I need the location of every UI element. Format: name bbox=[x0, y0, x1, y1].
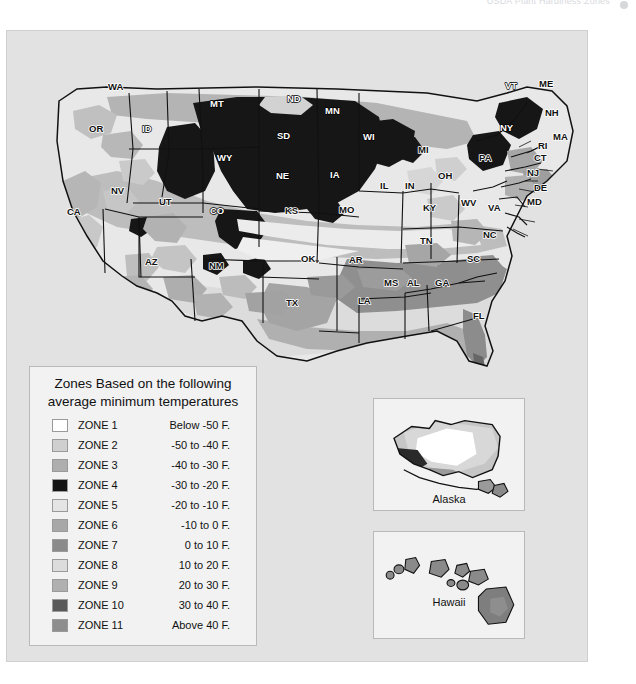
state-label-ri: RI bbox=[538, 140, 548, 151]
screenshot-root: USDA Plant Hardiness Zones bbox=[0, 0, 636, 684]
zone-name: ZONE 8 bbox=[78, 559, 140, 571]
zone-color-swatch bbox=[52, 419, 68, 432]
top-strip-text: USDA Plant Hardiness Zones bbox=[487, 0, 610, 6]
state-label-sd: SD bbox=[277, 130, 290, 141]
legend-title-line2: average minimum temperatures bbox=[40, 393, 246, 411]
zone-color-swatch bbox=[52, 599, 68, 612]
legend-row: ZONE 1Below -50 F. bbox=[40, 415, 246, 435]
state-label-az: AZ bbox=[145, 256, 158, 267]
zone-name: ZONE 5 bbox=[78, 499, 140, 511]
zone-temperature-range: 20 to 30 F. bbox=[140, 579, 246, 591]
zone-temperature-range: Above 40 F. bbox=[140, 619, 246, 631]
state-label-wy: WY bbox=[217, 152, 233, 163]
state-label-al: AL bbox=[407, 277, 420, 288]
state-label-ok: OK bbox=[301, 253, 315, 264]
state-label-ny: NY bbox=[500, 122, 514, 133]
zone-name: ZONE 1 bbox=[78, 419, 140, 431]
state-label-wv: WV bbox=[461, 197, 477, 208]
state-label-de: DE bbox=[534, 182, 547, 193]
state-label-ar: AR bbox=[349, 254, 363, 265]
zone-color-swatch bbox=[52, 579, 68, 592]
legend-row: ZONE 3-40 to -30 F. bbox=[40, 455, 246, 475]
legend-row: ZONE 1030 to 40 F. bbox=[40, 595, 246, 615]
state-label-ca: CA bbox=[67, 206, 81, 217]
zone-temperature-range: -40 to -30 F. bbox=[140, 459, 246, 471]
legend-row: ZONE 4-30 to -20 F. bbox=[40, 475, 246, 495]
alaska-caption: Alaska bbox=[374, 493, 524, 505]
zone-color-swatch bbox=[52, 479, 68, 492]
zone-name: ZONE 2 bbox=[78, 439, 140, 451]
zone-name: ZONE 7 bbox=[78, 539, 140, 551]
state-label-vt: VT bbox=[505, 80, 517, 91]
state-label-ga: GA bbox=[435, 277, 449, 288]
zone-temperature-range: -10 to 0 F. bbox=[140, 519, 246, 531]
state-label-id: ID bbox=[142, 123, 152, 134]
legend: Zones Based on the following average min… bbox=[29, 366, 257, 646]
zone-color-swatch bbox=[52, 459, 68, 472]
zone-temperature-range: 0 to 10 F. bbox=[140, 539, 246, 551]
state-label-va: VA bbox=[488, 202, 501, 213]
zone-name: ZONE 6 bbox=[78, 519, 140, 531]
legend-rows: ZONE 1Below -50 F.ZONE 2-50 to -40 F.ZON… bbox=[40, 415, 246, 635]
alaska-inset[interactable]: Alaska bbox=[373, 398, 525, 511]
state-label-co: CO bbox=[210, 205, 224, 216]
map-panel: WAORIDMTWYNVUTCACOAZNMNDSDNEKSOKTXMNIAMO… bbox=[6, 30, 588, 662]
state-label-ky: KY bbox=[423, 202, 437, 213]
zone-temperature-range: 30 to 40 F. bbox=[140, 599, 246, 611]
state-label-il: IL bbox=[380, 180, 389, 191]
legend-title-line1: Zones Based on the following bbox=[40, 375, 246, 393]
state-label-me: ME bbox=[539, 78, 553, 89]
state-label-fl: FL bbox=[473, 310, 485, 321]
state-label-or: OR bbox=[89, 123, 103, 134]
zone-color-swatch bbox=[52, 439, 68, 452]
hawaii-caption: Hawaii bbox=[374, 596, 524, 608]
state-label-ne: NE bbox=[276, 170, 289, 181]
zone-name: ZONE 9 bbox=[78, 579, 140, 591]
state-label-wi: WI bbox=[363, 131, 375, 142]
state-label-nc: NC bbox=[483, 229, 497, 240]
legend-row: ZONE 810 to 20 F. bbox=[40, 555, 246, 575]
state-label-oh: OH bbox=[438, 170, 452, 181]
state-label-la: LA bbox=[358, 295, 371, 306]
legend-row: ZONE 70 to 10 F. bbox=[40, 535, 246, 555]
state-label-md: MD bbox=[527, 196, 542, 207]
zone-color-swatch bbox=[52, 499, 68, 512]
zone-color-swatch bbox=[52, 559, 68, 572]
state-label-nd: ND bbox=[287, 93, 301, 104]
legend-title: Zones Based on the following average min… bbox=[40, 375, 246, 411]
state-label-ut: UT bbox=[159, 196, 172, 207]
zone-temperature-range: 10 to 20 F. bbox=[140, 559, 246, 571]
zone-name: ZONE 3 bbox=[78, 459, 140, 471]
state-label-pa: PA bbox=[479, 152, 492, 163]
state-label-mn: MN bbox=[325, 105, 340, 116]
legend-row: ZONE 11Above 40 F. bbox=[40, 615, 246, 635]
state-label-nv: NV bbox=[111, 185, 125, 196]
state-label-ia: IA bbox=[330, 169, 340, 180]
zone-color-swatch bbox=[52, 539, 68, 552]
state-label-tn: TN bbox=[420, 235, 433, 246]
legend-row: ZONE 920 to 30 F. bbox=[40, 575, 246, 595]
zone-name: ZONE 11 bbox=[78, 619, 140, 631]
state-label-mo: MO bbox=[339, 204, 354, 215]
hawaii-inset[interactable]: Hawaii bbox=[373, 531, 525, 639]
legend-row: ZONE 2-50 to -40 F. bbox=[40, 435, 246, 455]
circle-icon bbox=[620, 1, 628, 9]
state-label-mi: MI bbox=[418, 144, 429, 155]
legend-row: ZONE 6-10 to 0 F. bbox=[40, 515, 246, 535]
legend-row: ZONE 5-20 to -10 F. bbox=[40, 495, 246, 515]
state-label-ks: KS bbox=[285, 205, 298, 216]
top-cropped-strip: USDA Plant Hardiness Zones bbox=[0, 0, 636, 14]
hawaii-svg bbox=[374, 532, 524, 638]
state-label-tx: TX bbox=[286, 297, 299, 308]
zone-color-swatch bbox=[52, 519, 68, 532]
state-label-ct: CT bbox=[534, 152, 547, 163]
state-label-wa: WA bbox=[108, 81, 123, 92]
state-label-ma: MA bbox=[553, 131, 568, 142]
zone-temperature-range: -50 to -40 F. bbox=[140, 439, 246, 451]
zone-name: ZONE 10 bbox=[78, 599, 140, 611]
state-label-mt: MT bbox=[210, 98, 224, 109]
state-label-sc: SC bbox=[467, 253, 480, 264]
zone-temperature-range: -20 to -10 F. bbox=[140, 499, 246, 511]
zone-name: ZONE 4 bbox=[78, 479, 140, 491]
state-label-nm: NM bbox=[209, 260, 224, 271]
